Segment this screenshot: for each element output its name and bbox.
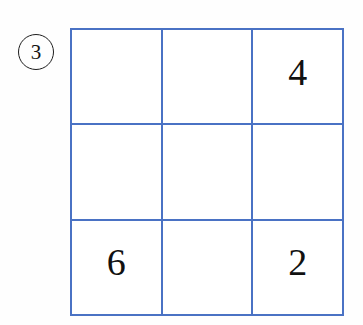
grid-cell-r0-c2[interactable]: 4 xyxy=(253,30,344,125)
grid-cell-r1-c1[interactable] xyxy=(163,125,254,220)
question-number-badge: 3 xyxy=(18,34,54,70)
grid-cell-r1-c0[interactable] xyxy=(72,125,163,220)
grid-cell-r2-c1[interactable] xyxy=(163,221,254,316)
grid-cell-r0-c1[interactable] xyxy=(163,30,254,125)
grid-cell-value: 4 xyxy=(288,53,307,91)
grid-cell-r2-c0[interactable]: 6 xyxy=(72,221,163,316)
grid-cell-value: 6 xyxy=(107,243,126,281)
puzzle-grid: 462 xyxy=(70,28,344,316)
puzzle-page: 3 462 xyxy=(0,0,363,325)
grid-cell-r0-c0[interactable] xyxy=(72,30,163,125)
grid-cell-r1-c2[interactable] xyxy=(253,125,344,220)
puzzle-grid-container: 462 xyxy=(70,28,344,316)
grid-cell-r2-c2[interactable]: 2 xyxy=(253,221,344,316)
grid-cell-value: 2 xyxy=(288,243,307,281)
question-number-label: 3 xyxy=(31,41,42,62)
